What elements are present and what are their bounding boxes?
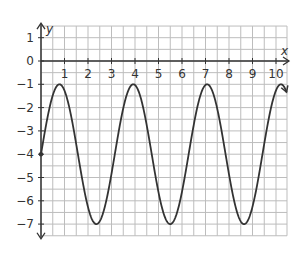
x-tick-label: 4 bbox=[131, 67, 139, 81]
start-point bbox=[39, 152, 43, 156]
x-tick-label: 2 bbox=[84, 67, 92, 81]
x-tick-label: 8 bbox=[225, 67, 233, 81]
y-tick-label: −5 bbox=[16, 171, 34, 185]
x-tick-label: 3 bbox=[108, 67, 116, 81]
x-tick-label: 5 bbox=[155, 67, 163, 81]
x-tick-label: 6 bbox=[178, 67, 186, 81]
y-tick-label: −2 bbox=[16, 101, 34, 115]
x-tick-label: 7 bbox=[202, 67, 210, 81]
y-tick-label: −4 bbox=[16, 147, 34, 161]
y-tick-label: 1 bbox=[26, 31, 34, 45]
y-axis-label: y bbox=[45, 22, 54, 36]
y-tick-label: 0 bbox=[26, 54, 34, 68]
x-tick-label: 10 bbox=[268, 67, 283, 81]
y-tick-label: −7 bbox=[16, 217, 34, 231]
y-tick-label: −6 bbox=[16, 194, 34, 208]
y-tick-label: −1 bbox=[16, 77, 34, 91]
grid-lines bbox=[41, 26, 287, 236]
tick-labels: yx1234567891010−1−2−3−4−5−6−7 bbox=[16, 22, 289, 231]
sine-graph: yx1234567891010−1−2−3−4−5−6−7 bbox=[0, 0, 302, 253]
x-axis-label: x bbox=[280, 44, 289, 58]
x-tick-label: 9 bbox=[249, 67, 257, 81]
x-tick-label: 1 bbox=[61, 67, 69, 81]
y-tick-label: −3 bbox=[16, 124, 34, 138]
